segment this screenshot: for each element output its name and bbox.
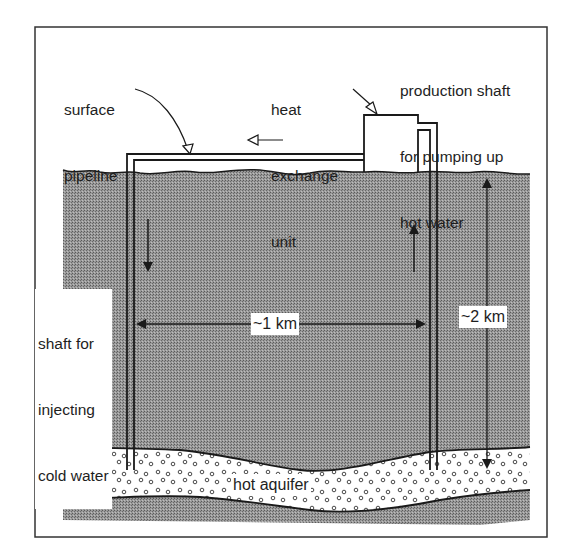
- label-line: hot water: [400, 212, 510, 234]
- label-depth: ~2 km: [459, 306, 507, 328]
- label-line: pipeline: [64, 165, 117, 187]
- label-surface-pipeline: surface pipeline: [64, 55, 117, 209]
- label-hot-aquifer: hot aquifer: [231, 474, 311, 496]
- label-line: heat: [271, 99, 338, 121]
- label-line: injecting: [38, 399, 109, 421]
- label-line: shaft for: [38, 333, 109, 355]
- label-line: for pumping up: [400, 146, 510, 168]
- label-line: surface: [64, 99, 117, 121]
- label-line: cold water: [38, 465, 109, 487]
- heat-exchange-pointer-head: [366, 102, 377, 114]
- label-injection-shaft: shaft for injecting cold water: [35, 289, 112, 509]
- label-horizontal-distance: ~1 km: [251, 313, 299, 335]
- label-line: production shaft: [400, 80, 510, 102]
- heat-exchange-pointer: [353, 89, 372, 106]
- surface-pipeline-pointer-head: [183, 144, 193, 154]
- label-line: exchange: [271, 165, 338, 187]
- surface-pipeline-pointer: [135, 89, 188, 150]
- label-production-shaft: production shaft for pumping up hot wate…: [400, 36, 510, 256]
- label-line: unit: [271, 231, 338, 253]
- label-heat-exchange-unit: heat exchange unit: [271, 55, 338, 275]
